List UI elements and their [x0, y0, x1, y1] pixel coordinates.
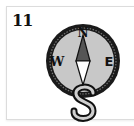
west-label: W [49, 54, 65, 69]
east-label: E [105, 54, 114, 69]
north-label: N [78, 26, 89, 40]
compass-icon: N W E [41, 21, 127, 126]
card-number: 11 [12, 11, 32, 30]
icon-card[interactable]: 11 N W E [6, 6, 134, 120]
